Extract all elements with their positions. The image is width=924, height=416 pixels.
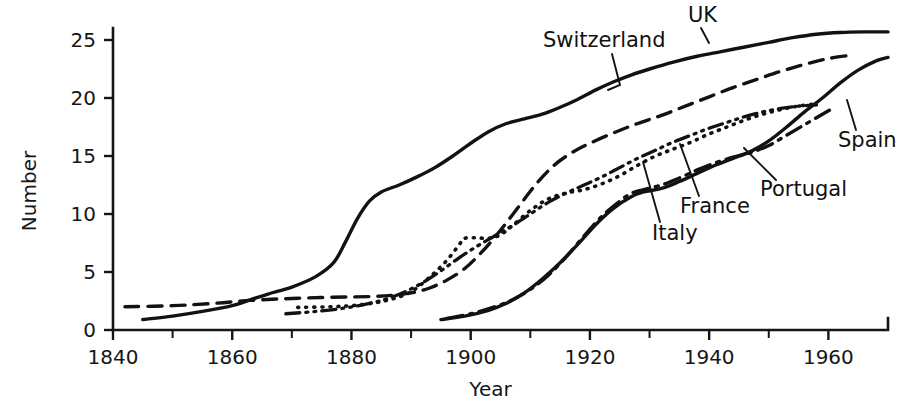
y-tick-label: 15: [71, 144, 96, 168]
chart-canvas: 05101520251840186018801900192019401960Ye…: [0, 0, 924, 416]
x-tick-label: 1840: [88, 345, 139, 369]
x-tick-label: 1940: [684, 345, 735, 369]
x-tick-label: 1960: [803, 345, 854, 369]
series-line-portugal: [447, 107, 834, 318]
series-label-france: France: [680, 194, 750, 218]
y-tick-label: 25: [71, 28, 96, 52]
leader-line-portugal: [744, 148, 776, 180]
x-tick-label: 1900: [445, 345, 496, 369]
leader-line-spain: [847, 100, 856, 130]
x-axis-title: Year: [468, 377, 512, 401]
series-group: [125, 32, 888, 320]
series-label-portugal: Portugal: [760, 177, 847, 201]
x-tick-label: 1860: [207, 345, 258, 369]
series-line-uk: [143, 32, 888, 320]
series-label-spain: Spain: [838, 128, 897, 152]
series-line-switzerland: [125, 55, 852, 307]
x-tick-label: 1920: [564, 345, 615, 369]
y-tick-label: 0: [83, 318, 96, 342]
series-label-italy: Italy: [652, 221, 698, 245]
series-label-uk: UK: [688, 3, 718, 27]
y-tick-label: 20: [71, 86, 96, 110]
line-chart: 05101520251840186018801900192019401960Ye…: [0, 0, 924, 416]
y-axis-title: Number: [17, 150, 41, 231]
y-tick-label: 10: [71, 202, 96, 226]
leader-line-uk: [701, 28, 709, 43]
y-tick-label: 5: [83, 260, 96, 284]
series-label-switzerland: Switzerland: [543, 28, 666, 52]
x-tick-label: 1880: [326, 345, 377, 369]
